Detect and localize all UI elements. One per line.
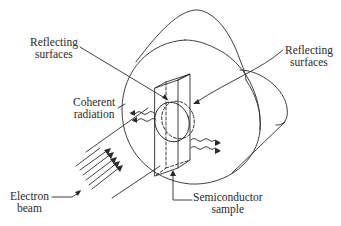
label-reflecting-surfaces-right: Reflecting surfaces [285, 44, 333, 68]
label-reflecting-surfaces-left: Reflecting surfaces [30, 36, 78, 60]
label-coherent-radiation: Coherent radiation [73, 96, 115, 120]
cylinder-inner-rim [246, 80, 260, 130]
label-line: Reflecting [30, 36, 78, 48]
label-line: surfaces [30, 48, 78, 60]
label-line: surfaces [285, 56, 333, 68]
label-line: Electron [10, 190, 49, 202]
label-electron-beam: Electron beam [10, 190, 49, 214]
label-semiconductor-sample: Semiconductor sample [193, 191, 263, 215]
label-line: sample [193, 203, 263, 215]
cylinder-bottom-edge [232, 122, 285, 173]
semiconductor-block [150, 74, 199, 176]
leader-coherent [118, 104, 125, 108]
electron-beam-arrows [76, 148, 120, 189]
label-line: Reflecting [285, 44, 333, 56]
cylinder-top-edge [136, 10, 246, 80]
label-line: Semiconductor [193, 191, 263, 203]
cylinder-back-end [240, 70, 287, 125]
label-line: beam [10, 202, 49, 214]
leader-semiconductor [173, 172, 192, 200]
laser-diagram [0, 0, 341, 226]
label-line: radiation [73, 108, 115, 120]
radiation-waves [130, 112, 219, 151]
label-line: Coherent [73, 96, 115, 108]
